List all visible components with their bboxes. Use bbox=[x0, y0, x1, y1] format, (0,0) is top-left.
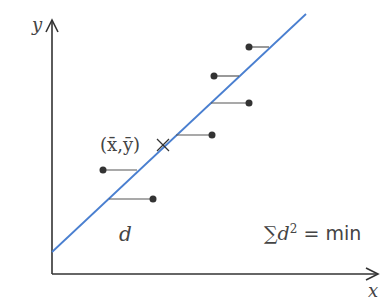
formula-var: d bbox=[278, 222, 290, 244]
regression-diagram bbox=[0, 0, 392, 305]
residual-label: d bbox=[119, 222, 132, 246]
formula-label: ∑d2 = min bbox=[264, 222, 361, 244]
mean-point-label: (x̄,ȳ) bbox=[100, 134, 140, 155]
formula-rest: = min bbox=[297, 222, 361, 244]
residual-segments bbox=[103, 47, 269, 199]
sigma-symbol: ∑ bbox=[264, 222, 278, 244]
y-axis-label: y bbox=[32, 14, 42, 35]
x-axis-label: x bbox=[368, 280, 378, 301]
data-points bbox=[100, 44, 253, 203]
regression-line bbox=[52, 14, 306, 252]
